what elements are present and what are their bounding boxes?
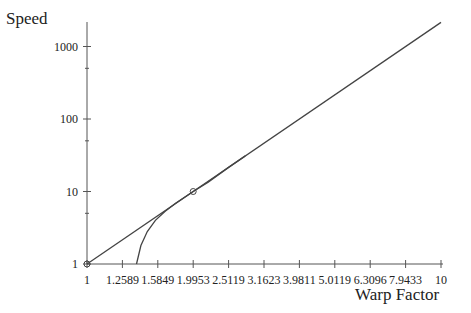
- y-tick-label: 1000: [54, 40, 78, 54]
- y-tick-label: 100: [60, 112, 78, 126]
- x-tick-label: 5.0119: [319, 273, 352, 287]
- warp-speed-chart: 11.25891.58491.99532.51193.16233.98115.0…: [0, 0, 471, 313]
- series-lines: [87, 22, 441, 264]
- x-tick-label: 1.9953: [177, 273, 210, 287]
- power-law-line: [87, 22, 441, 264]
- x-tick-label: 1.5849: [141, 273, 174, 287]
- x-tick-label: 1.2589: [106, 273, 139, 287]
- y-tick-label: 10: [66, 185, 78, 199]
- x-tick-label: 2.5119: [212, 273, 245, 287]
- y-axis-label: Speed: [6, 9, 48, 29]
- x-tick-label: 3.1623: [248, 273, 281, 287]
- x-tick-label: 1: [84, 273, 90, 287]
- y-tick-label: 1: [72, 257, 78, 271]
- x-tick-label: 3.9811: [283, 273, 316, 287]
- axes: 11.25891.58491.99532.51193.16233.98115.0…: [54, 22, 447, 287]
- approximation-curve: [137, 156, 246, 264]
- x-axis-label: Warp Factor: [355, 285, 439, 305]
